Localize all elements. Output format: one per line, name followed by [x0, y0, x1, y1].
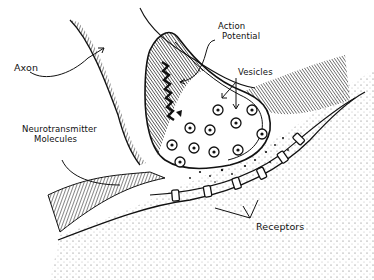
synapse-illustration: Axon Action Potential Vesicles Neurotran…: [0, 0, 374, 280]
axon-shading: [70, 20, 146, 165]
label-action-potential-line2: Potential: [222, 32, 260, 41]
label-axon: Axon: [14, 63, 38, 72]
label-receptors: Receptors: [256, 222, 304, 231]
label-vesicles: Vesicles: [238, 68, 273, 77]
label-neurotransmitter-line1: Neurotransmitter: [22, 125, 97, 134]
label-action-potential-line1: Action: [218, 22, 245, 31]
label-neurotransmitter-line2: Molecules: [34, 135, 77, 144]
